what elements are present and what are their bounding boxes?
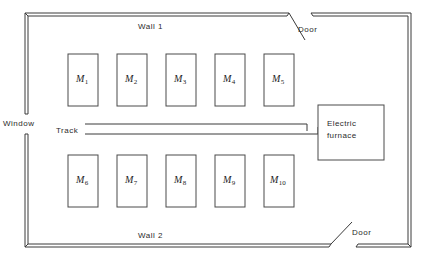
window-label: Window (3, 119, 34, 129)
track-rail-upper (85, 124, 307, 131)
furnace-label-line-2: furnace (327, 130, 356, 142)
door-bottom-swing-line (331, 222, 352, 244)
wall-1-label: Wall 1 (138, 22, 163, 32)
wall-2-label: Wall 2 (138, 231, 163, 241)
machine-label-M1: M1 (76, 73, 88, 84)
machine-label-M3: M3 (174, 73, 186, 84)
wall-top-left-segment (25, 13, 289, 16)
machine-label-M9: M9 (223, 174, 235, 185)
machine-label-M7: M7 (125, 174, 137, 185)
electric-furnace-label: Electric furnace (327, 118, 356, 141)
door-top-label: Door (298, 25, 317, 35)
wall-left-lower-segment (25, 134, 28, 247)
wall-top-right-segment (311, 13, 411, 16)
track-rail-lower (85, 127, 318, 134)
factory-floor-plan: Wall 1 Wall 2 Window Door Door Track Ele… (0, 0, 426, 260)
wall-left-upper-segment (25, 13, 28, 114)
wall-bottom-left-segment (25, 244, 331, 247)
door-bottom-label: Door (352, 228, 371, 238)
machine-label-M8: M8 (174, 174, 186, 185)
track-label: Track (56, 126, 78, 136)
machine-label-M4: M4 (223, 73, 235, 84)
furnace-label-line-1: Electric (327, 118, 356, 130)
machine-label-M2: M2 (125, 73, 137, 84)
wall-right (408, 13, 411, 247)
machine-label-M10: M10 (270, 174, 285, 185)
machine-label-M5: M5 (272, 73, 284, 84)
wall-bottom-right-segment (356, 244, 411, 247)
machine-label-M6: M6 (76, 174, 88, 185)
